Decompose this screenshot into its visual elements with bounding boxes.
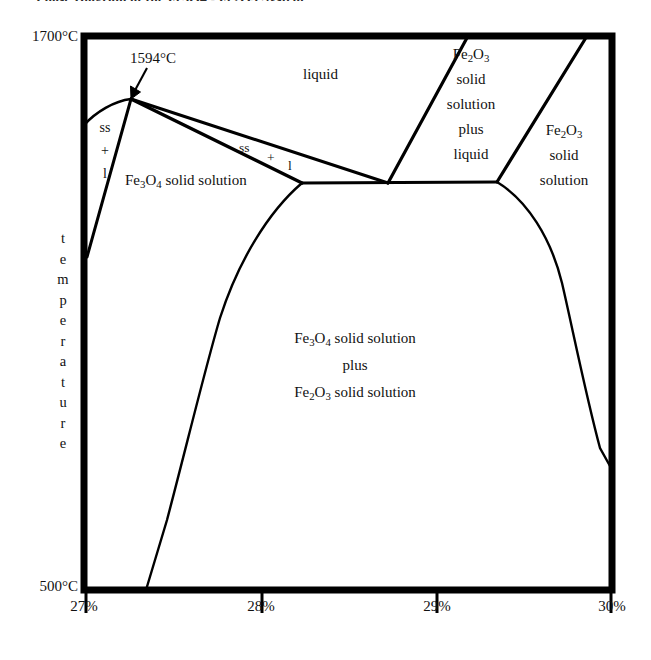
x-axis-tick-label-30: 30% xyxy=(590,598,634,615)
y-axis-title-letter: m xyxy=(55,269,71,290)
field-label-line: solid xyxy=(518,143,610,168)
field-label-line: solution xyxy=(423,92,519,117)
field-label-ss-plus-l-left: ss + l xyxy=(92,116,118,185)
field-label-ss-mid: ss xyxy=(239,140,250,156)
field-label-line: solution xyxy=(518,168,610,193)
y-axis-title-letter: t xyxy=(55,372,71,393)
y-axis-title: t e m p e r a t u r e xyxy=(55,228,71,454)
field-label-line: liquid xyxy=(423,142,519,167)
invariant-horizontal-line xyxy=(302,182,497,183)
field-label-line: Fe3O4 solid solution xyxy=(255,325,455,352)
field-label-plus-mid: + xyxy=(267,150,275,166)
field-label-fe2o3-solid-solution: Fe2O3 solid solution xyxy=(518,118,610,193)
y-axis-title-letter: r xyxy=(55,331,71,352)
field-label-line: Fe2O3 xyxy=(518,118,610,143)
y-axis-title-letter: e xyxy=(55,433,71,454)
field-label-fe3o4-solid-solution: Fe3O4 solid solution xyxy=(125,170,247,191)
y-axis-title-letter: e xyxy=(55,249,71,270)
y-axis-title-letter: t xyxy=(55,228,71,249)
y-axis-title-letter: a xyxy=(55,351,71,372)
y-axis-tick-label-bottom: 500°C xyxy=(2,578,78,595)
x-axis-tick-label-28: 28% xyxy=(239,598,283,615)
y-axis-title-letter: u xyxy=(55,392,71,413)
field-label-line: ss xyxy=(100,120,111,135)
field-label-l-mid: l xyxy=(288,158,292,174)
field-label-line: solid xyxy=(423,67,519,92)
peak-temperature-label: 1594°C xyxy=(130,50,176,67)
field-label-line: + xyxy=(101,143,109,158)
field-label-line: l xyxy=(103,166,107,181)
field-label-line: Fe2O3 solid solution xyxy=(255,379,455,406)
field-label-line: plus xyxy=(423,117,519,142)
y-axis-title-letter: r xyxy=(55,413,71,434)
field-label-fe2o3-ss-plus-liquid: Fe2O3 solid solution plus liquid xyxy=(423,42,519,167)
x-axis-tick-label-27: 27% xyxy=(62,598,106,615)
phase-diagram-figure: Phase Diagram of the Fe3O4 - Fe2O3 Syste… xyxy=(0,0,651,660)
y-axis-title-letter: e xyxy=(55,310,71,331)
x-axis-tick-label-29: 29% xyxy=(415,598,459,615)
field-label-liquid: liquid xyxy=(303,64,338,85)
field-label-line: plus xyxy=(255,352,455,379)
peak-annotation-arrow xyxy=(131,68,148,99)
solvus-right-curve xyxy=(497,182,610,466)
y-axis-tick-label-top: 1700°C xyxy=(2,28,78,45)
field-label-line: Fe2O3 xyxy=(423,42,519,67)
y-axis-title-letter: p xyxy=(55,290,71,311)
field-label-two-phase-solid: Fe3O4 solid solution plus Fe2O3 solid so… xyxy=(255,325,455,406)
